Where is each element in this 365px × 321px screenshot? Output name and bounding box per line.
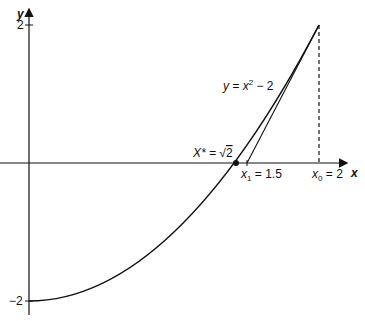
- diagram-svg: y 2 −2 x y = x2 − 2 X* = √2 x1 = 1.5 x0 …: [0, 0, 365, 321]
- tick-label-2: 2: [17, 18, 24, 32]
- root-label: X* = √2: [192, 146, 233, 160]
- tick-label-neg2: −2: [9, 294, 23, 308]
- root-point: [233, 160, 239, 166]
- newton-method-diagram: y 2 −2 x y = x2 − 2 X* = √2 x1 = 1.5 x0 …: [0, 0, 365, 321]
- curve-equation-label: y = x2 − 2: [222, 78, 274, 93]
- x-axis-label: x: [350, 166, 359, 180]
- x1-label: x1 = 1.5: [240, 167, 282, 183]
- tangent-line: [247, 25, 319, 163]
- x0-label: x0 = 2: [311, 167, 343, 183]
